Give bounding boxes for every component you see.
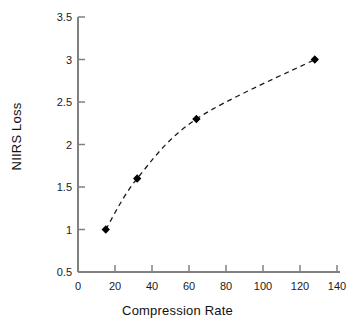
x-tick-label: 40	[146, 281, 158, 292]
y-tick-label: 1.5	[57, 182, 72, 193]
y-tick-label: 0.5	[57, 267, 72, 278]
y-tick-label: 2.5	[57, 97, 72, 108]
data-point-marker	[311, 56, 318, 63]
y-axis-ticks	[78, 17, 85, 272]
y-tick-label: 3	[66, 54, 72, 65]
x-tick-label: 60	[183, 281, 195, 292]
chart-figure: 0.511.522.533.5 020406080100120140 NIIRS…	[0, 0, 355, 329]
axes	[78, 17, 340, 272]
data-point-marker	[102, 226, 109, 233]
y-axis-title-text: NIIRS Loss	[10, 102, 25, 170]
x-tick-label: 120	[291, 281, 309, 292]
x-tick-label: 100	[254, 281, 272, 292]
x-axis-title: Compression Rate	[0, 303, 355, 318]
y-tick-label: 1	[66, 224, 72, 235]
x-tick-label: 80	[220, 281, 232, 292]
data-point-marker	[193, 116, 200, 123]
y-tick-label: 3.5	[57, 12, 72, 23]
x-tick-label: 0	[75, 281, 81, 292]
series-markers	[102, 56, 318, 233]
y-axis-title: NIIRS Loss	[6, 0, 28, 272]
series-trend-line	[106, 60, 315, 230]
x-tick-label: 140	[328, 281, 346, 292]
y-tick-label: 2	[66, 139, 72, 150]
x-axis-ticks	[78, 265, 337, 272]
series-dashed-line	[106, 60, 315, 230]
x-tick-label: 20	[109, 281, 121, 292]
